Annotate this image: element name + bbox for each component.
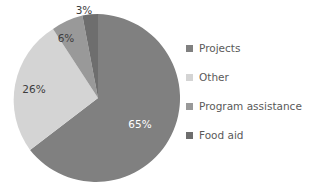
legend-swatch-icon-projects	[186, 45, 193, 52]
legend-item-other[interactable]: Other	[186, 63, 312, 92]
legend-label-food-aid: Food aid	[199, 130, 244, 141]
slice-label-projects: 65%	[128, 118, 151, 130]
slice-label-other: 26%	[22, 83, 45, 95]
legend-label-other: Other	[199, 72, 229, 83]
slice-label-food-aid: 3%	[76, 4, 93, 16]
chart-legend: Projects Other Program assistance Food a…	[186, 34, 312, 150]
legend-item-projects[interactable]: Projects	[186, 34, 312, 63]
legend-label-projects: Projects	[199, 43, 240, 54]
slice-label-program-assistance: 6%	[58, 32, 75, 44]
pie-chart: 65% 26% 6% 3% Projects Other Program ass…	[0, 0, 313, 191]
legend-swatch-icon-program-assistance	[186, 103, 193, 110]
legend-swatch-icon-other	[186, 74, 193, 81]
legend-item-food-aid[interactable]: Food aid	[186, 121, 312, 150]
legend-label-program-assistance: Program assistance	[199, 101, 302, 112]
legend-swatch-icon-food-aid	[186, 132, 193, 139]
legend-item-program-assistance[interactable]: Program assistance	[186, 92, 312, 121]
